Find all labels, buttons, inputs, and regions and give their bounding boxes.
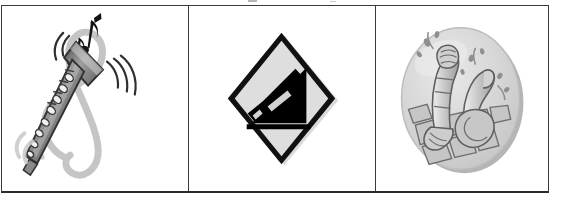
clarinet-treble-clef-icon — [2, 6, 188, 191]
steep-descent-diamond-sign-icon — [189, 6, 375, 191]
hands-reaching-oval-icon — [376, 6, 548, 191]
cropped-mark-left-icon — [248, 0, 257, 2]
pictogram-table: Clarinet with treble clef and musical no… — [1, 5, 549, 193]
screenshot-stage: Clarinet with treble clef and musical no… — [0, 0, 561, 206]
cell-hands[interactable]: Hands reaching up from cobblestones insi… — [375, 6, 548, 191]
cell-road-sign[interactable]: Diamond warning sign: truck on steep des… — [188, 6, 375, 191]
cell-music[interactable]: Clarinet with treble clef and musical no… — [2, 6, 188, 191]
cropped-mark-right-icon — [330, 1, 336, 2]
